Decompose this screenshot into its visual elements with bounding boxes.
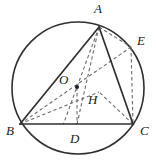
point-label-H: H	[88, 93, 97, 106]
point-label-E: E	[137, 34, 145, 47]
segment-BH-to-E	[20, 47, 131, 124]
geometry-figure: A B C D E O H	[0, 0, 156, 163]
segment-AC	[99, 27, 133, 124]
point-label-A: A	[94, 2, 102, 15]
point-label-O: O	[59, 73, 68, 86]
segment-EC	[131, 47, 133, 124]
point-label-D: D	[70, 132, 79, 145]
center-point-dot	[75, 85, 79, 89]
solid-segments	[20, 27, 133, 124]
point-label-C: C	[140, 124, 149, 137]
segment-AO-extended	[63, 27, 99, 124]
point-label-B: B	[6, 124, 14, 137]
segment-AE	[99, 27, 131, 47]
